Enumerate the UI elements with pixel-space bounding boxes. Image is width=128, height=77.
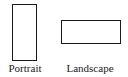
- landscape-label: Landscape: [62, 62, 118, 74]
- portrait-rectangle: [12, 4, 37, 61]
- portrait-label: Portrait: [4, 62, 46, 74]
- landscape-rectangle: [61, 20, 121, 44]
